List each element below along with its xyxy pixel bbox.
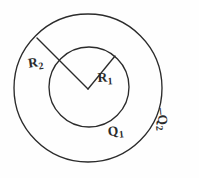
label-inner-radius-subscript: 1	[107, 76, 113, 87]
label-inner-charge-base: Q	[107, 123, 119, 139]
label-inner-radius: R1	[97, 68, 113, 87]
label-outer-radius-base: R	[27, 55, 39, 71]
physics-diagram: R2 R1 Q1 –Q2	[0, 0, 199, 178]
label-inner-radius-base: R	[97, 69, 108, 84]
label-inner-charge-subscript: 1	[118, 129, 124, 140]
label-inner-charge: Q1	[107, 121, 125, 141]
outer-radius-line	[37, 38, 88, 89]
label-outer-radius: R2	[27, 53, 44, 73]
diagram-canvas	[0, 0, 199, 178]
label-outer-charge: –Q2	[152, 107, 173, 131]
